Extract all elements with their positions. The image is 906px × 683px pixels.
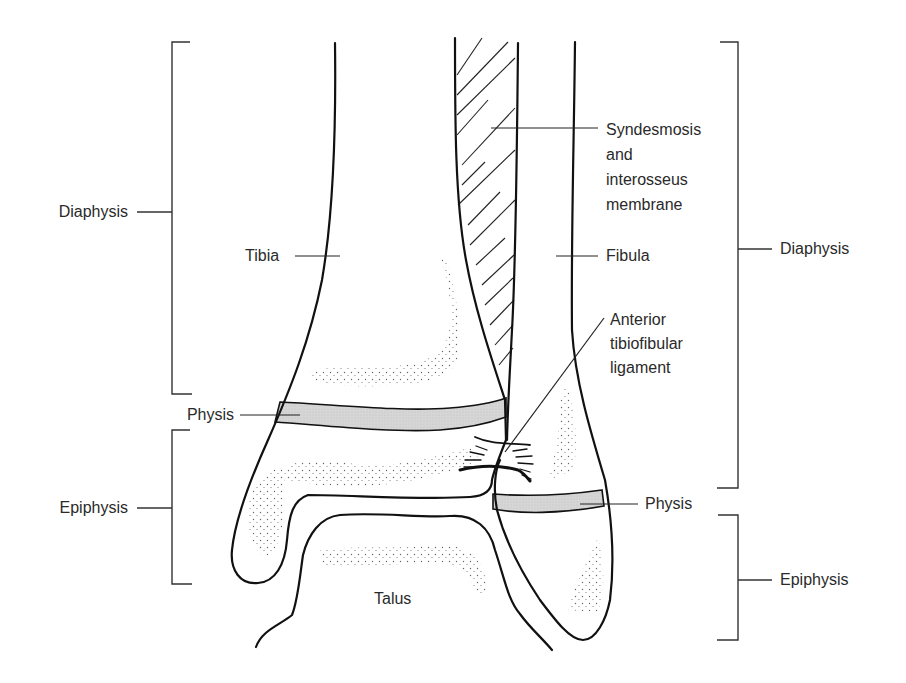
stipple-regions [248, 258, 604, 612]
label-physis-right: Physis [645, 494, 692, 514]
label-syndesmosis: Syndesmosis and interosseus membrane [606, 117, 701, 217]
label-anterior-ligament: Anterior tibiofibular ligament [610, 308, 683, 380]
fibular-physis [493, 490, 604, 512]
label-diaphysis-right: Diaphysis [780, 239, 849, 259]
label-physis-left: Physis [170, 405, 234, 425]
bracket-right-epiphysis [717, 515, 772, 640]
bracket-left-epiphysis [137, 430, 192, 584]
label-epiphysis-left: Epiphysis [42, 498, 128, 518]
ankle-anatomy-diagram [0, 0, 906, 683]
label-anterior-ligament-line3: ligament [610, 356, 683, 380]
label-anterior-ligament-line2: tibiofibular [610, 332, 683, 356]
label-syndesmosis-line4: membrane [606, 192, 701, 217]
label-talus: Talus [374, 589, 411, 609]
label-anterior-ligament-line1: Anterior [610, 308, 683, 332]
tibial-physis [275, 398, 506, 431]
label-epiphysis-right: Epiphysis [780, 570, 848, 590]
talus-outline [256, 514, 552, 650]
label-fibula: Fibula [606, 246, 650, 266]
label-tibia: Tibia [245, 246, 279, 266]
label-syndesmosis-line3: interosseus [606, 167, 701, 192]
leader-lines [240, 128, 638, 504]
label-syndesmosis-line1: Syndesmosis [606, 117, 701, 142]
leader-anterior-ligament [505, 318, 604, 452]
label-diaphysis-left: Diaphysis [42, 202, 128, 222]
label-syndesmosis-line2: and [606, 142, 701, 167]
bracket-left-diaphysis [137, 42, 192, 394]
bracket-right-diaphysis [717, 42, 772, 488]
